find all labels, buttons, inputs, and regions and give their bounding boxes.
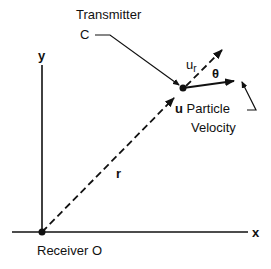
- receiver-label: Receiver O: [37, 243, 102, 258]
- velocity-leader: [242, 82, 256, 110]
- transmitter-leader: [95, 35, 179, 85]
- particle-velocity-label: u Particle: [175, 101, 230, 116]
- r-label: r: [116, 166, 121, 181]
- y-axis-label: y: [38, 48, 46, 63]
- transmitter-point-label: C: [80, 27, 89, 42]
- r-dashed-line: [42, 98, 174, 232]
- theta-label: θ: [212, 66, 219, 81]
- ur-label: ur: [186, 57, 197, 74]
- particle-velocity-diagram: y x Receiver O r ur θ Transmitter C u Pa…: [0, 0, 271, 269]
- transmitter-label: Transmitter: [76, 7, 142, 22]
- x-axis-label: x: [252, 225, 260, 240]
- velocity-label: Velocity: [191, 120, 236, 135]
